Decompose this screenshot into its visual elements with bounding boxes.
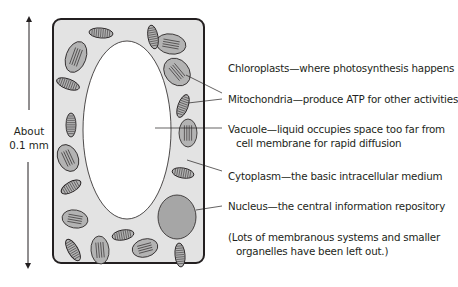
label-cytoplasm: Cytoplasm—the basic intracellular medium [228, 170, 442, 183]
label-chloroplasts: Chloroplasts—where photosynthesis happen… [228, 62, 454, 75]
scale-label-line2: 0.1 mm [4, 138, 54, 152]
chloroplast [179, 119, 197, 147]
scale-label-line1: About [4, 124, 54, 138]
label-mitochondria: Mitochondria—produce ATP for other activ… [228, 93, 458, 106]
label-vacuole-line2: cell membrane for rapid diffusion [236, 137, 401, 150]
label-vacuole-line1: Vacuole—liquid occupies space too far fr… [228, 123, 445, 136]
label-nucleus: Nucleus—the central information reposito… [228, 200, 445, 213]
note-line2: organelles have been left out.) [236, 245, 388, 258]
nucleus [158, 195, 196, 239]
vacuole [83, 41, 171, 219]
scale-label: About 0.1 mm [4, 124, 54, 152]
mitochondrion [66, 113, 76, 137]
note-line1: (Lots of membranous systems and smaller [228, 231, 440, 244]
